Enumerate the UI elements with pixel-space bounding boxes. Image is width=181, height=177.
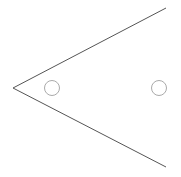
angle-diagram: [0, 0, 181, 177]
lower-ray: [13, 88, 166, 167]
upper-ray: [13, 8, 166, 88]
outer-circle: [152, 81, 167, 96]
inner-circle: [45, 81, 60, 96]
